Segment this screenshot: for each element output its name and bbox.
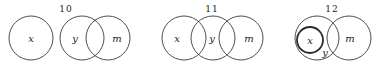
label-y: y [71, 33, 78, 44]
figure-number: 10 [59, 4, 72, 14]
circle-m [86, 16, 130, 60]
circle-m [219, 16, 263, 60]
figure-number: 12 [325, 4, 338, 14]
figure-number: 11 [205, 4, 218, 14]
label-m: m [345, 33, 354, 44]
label-y: y [321, 47, 328, 58]
label-x: x [174, 33, 180, 44]
label-m: m [112, 33, 121, 44]
figure-12: 12 y x m [295, 4, 371, 60]
label-m: m [244, 33, 253, 44]
circle-x [162, 16, 206, 60]
figure-10: 10 x y m [9, 4, 130, 60]
label-x: x [28, 33, 34, 44]
label-y: y [208, 33, 215, 44]
venn-diagrams: 10 x y m 11 x y m 12 y x m [0, 0, 379, 67]
label-x: x [307, 35, 313, 46]
circle-y [295, 16, 339, 60]
figure-11: 11 x y m [162, 4, 263, 60]
circle-y [60, 16, 104, 60]
